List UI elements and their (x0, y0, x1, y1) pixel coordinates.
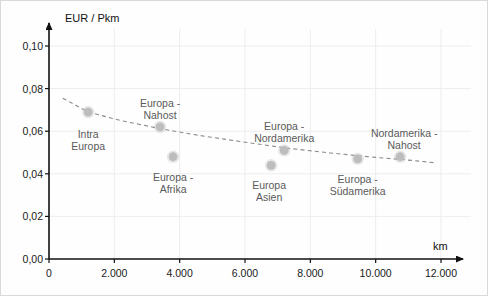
x-axis-tick-label: 6.000 (215, 268, 275, 279)
y-axis-tick-label: 0,00 (5, 254, 43, 265)
data-point-label: Europa - Südamerika (298, 173, 418, 197)
y-axis-tick-label: 0,02 (5, 211, 43, 222)
tick-marks (45, 46, 441, 263)
y-axis-tick-label: 0,04 (5, 169, 43, 180)
data-point-label: Europa - Nordamerika (224, 120, 344, 144)
y-axis-title: EUR / Pkm (65, 13, 119, 24)
x-axis-tick-label: 8.000 (280, 268, 340, 279)
data-point[interactable] (280, 146, 289, 155)
x-axis-title: km (433, 241, 448, 252)
x-axis-tick-label: 12.000 (411, 268, 471, 279)
data-point[interactable] (169, 152, 178, 161)
x-axis-tick-label: 4.000 (150, 268, 210, 279)
x-axis-tick-label: 0 (19, 268, 79, 279)
data-point-label: Intra Europa (28, 128, 148, 152)
data-point-label: Europa - Nahost (100, 97, 220, 121)
data-point[interactable] (156, 123, 165, 132)
data-point-label: Nordamerika - Nahost (344, 127, 464, 151)
x-axis-tick-label: 10.000 (346, 268, 406, 279)
x-axis-tick-label: 2.000 (84, 268, 144, 279)
y-axis-tick-label: 0,08 (5, 84, 43, 95)
data-point[interactable] (267, 161, 276, 170)
data-point[interactable] (353, 154, 362, 163)
data-point[interactable] (396, 152, 405, 161)
y-axis-tick-label: 0,10 (5, 41, 43, 52)
chart-container: 0,000,020,040,060,080,1002.0004.0006.000… (0, 0, 488, 296)
data-point[interactable] (84, 108, 93, 117)
